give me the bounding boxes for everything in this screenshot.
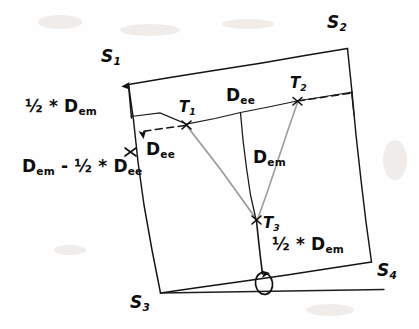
ray-t1-to-t3: [187, 126, 257, 220]
annotation-half-dem-bottom: ½ * Dem: [272, 236, 344, 253]
corner-label-s3: S3: [130, 294, 150, 311]
corner-label-s3-base: S: [130, 292, 143, 312]
dashed-arrow-t1-to-left-edge: [143, 126, 186, 132]
target-label-t2-base: T: [290, 74, 300, 92]
target-label-t2: T2: [290, 76, 307, 91]
target-label-t2-sub: 2: [300, 82, 306, 93]
annotation-dem-minus-half-dee: Dem - ½ * Dee: [22, 158, 142, 175]
corner-label-s2-sub: 2: [340, 21, 348, 33]
annotation-dee-left-text: D: [146, 139, 160, 159]
annotation-dem-minus-half-dee-a: D: [22, 156, 36, 176]
annotation-dee-top-text: D: [226, 85, 240, 105]
annotation-half-dem-left-sub: em: [78, 105, 97, 117]
annotation-dem-center-text: D: [253, 147, 267, 167]
target-label-t1-sub: 1: [189, 106, 195, 117]
corner-label-s1-base: S: [101, 46, 114, 66]
annotation-half-dem-bottom-text: ½ * D: [272, 234, 325, 254]
annotation-dem-minus-half-dee-a-sub: em: [36, 165, 55, 177]
horizontal-reference-line: [161, 290, 385, 294]
target-label-t1: T1: [179, 100, 196, 115]
annotation-half-dem-left: ½ * Dem: [25, 98, 97, 115]
quadrilateral-outline: [129, 49, 372, 294]
annotation-half-dem-left-text: ½ * D: [25, 96, 78, 116]
annotation-half-dem-bottom-sub: em: [325, 243, 344, 255]
corner-label-s4: S4: [377, 262, 397, 279]
target-label-t3-base: T: [263, 214, 273, 232]
corner-label-s2: S2: [327, 14, 347, 31]
edge-s1-s2: [129, 49, 348, 85]
arrow-half-dem-bottom: [257, 221, 263, 274]
geometry-figure: S1 S2 S3 S4 T1 T2 T3 ½ * Dem Dem - ½ * D…: [0, 0, 419, 329]
corner-label-s1: S1: [101, 48, 121, 65]
annotation-dem-center: Dem: [253, 149, 286, 166]
target-label-t3-sub: 3: [273, 222, 279, 233]
annotation-dee-left-sub: ee: [160, 148, 175, 160]
target-label-t3: T3: [263, 216, 280, 231]
annotation-dee-top: Dee: [226, 87, 255, 104]
target-label-t1-base: T: [179, 98, 189, 116]
edge-s2-s4: [348, 49, 372, 263]
annotation-dem-minus-half-dee-b: - ½ * D: [61, 156, 128, 176]
corner-label-s3-sub: 3: [143, 301, 151, 313]
corner-label-s4-sub: 4: [390, 269, 398, 281]
corner-label-s1-sub: 1: [114, 55, 122, 67]
corner-label-s2-base: S: [327, 12, 340, 32]
annotation-dee-top-sub: ee: [240, 94, 255, 106]
annotation-dem-minus-half-dee-b-sub: ee: [128, 165, 143, 177]
annotation-dee-left: Dee: [146, 141, 175, 158]
corner-label-s4-base: S: [377, 260, 390, 280]
annotation-dem-center-sub: em: [267, 156, 286, 168]
